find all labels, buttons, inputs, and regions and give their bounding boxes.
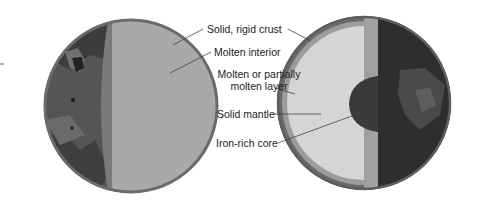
label-partial-line1: Molten or partially (202, 68, 316, 80)
left-planet (40, 15, 218, 200)
label-iron-rich-core: Iron-rich core (216, 137, 278, 149)
label-partial-line2: molten layer (202, 80, 316, 92)
label-molten-interior: Molten interior (214, 46, 281, 58)
right-planet (277, 16, 451, 190)
label-crust: Solid, rigid crust (207, 23, 282, 35)
label-solid-mantle: Solid mantle (217, 108, 275, 120)
label-partially-molten-layer: Molten or partially molten layer (202, 68, 316, 92)
